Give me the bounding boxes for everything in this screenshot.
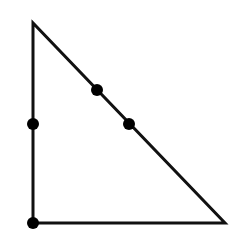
hypotenuse-upper-point-dot <box>91 84 103 96</box>
right-angle-vertex-point-dot <box>27 217 39 229</box>
triangle-diagram <box>0 0 229 246</box>
left-side-midpoint-dot <box>27 118 39 130</box>
hypotenuse-lower-point-dot <box>123 118 135 130</box>
